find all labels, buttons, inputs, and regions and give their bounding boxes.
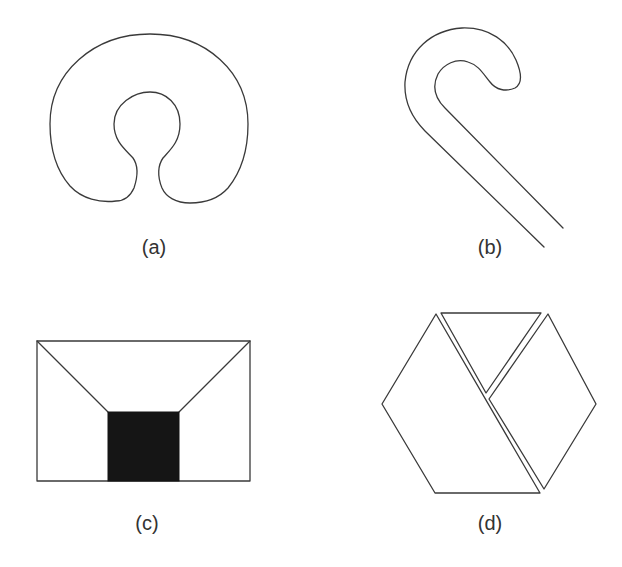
panel-a-shape bbox=[50, 34, 248, 203]
panel-d-label: (d) bbox=[478, 512, 502, 535]
figure-canvas bbox=[0, 0, 622, 567]
panel-d-shape bbox=[382, 313, 596, 493]
panel-b-label: (b) bbox=[478, 236, 502, 259]
panel-c-label: (c) bbox=[135, 512, 158, 535]
panel-b-shape bbox=[405, 28, 563, 247]
panel-c-shape bbox=[37, 341, 250, 481]
panel-a-label: (a) bbox=[142, 236, 166, 259]
